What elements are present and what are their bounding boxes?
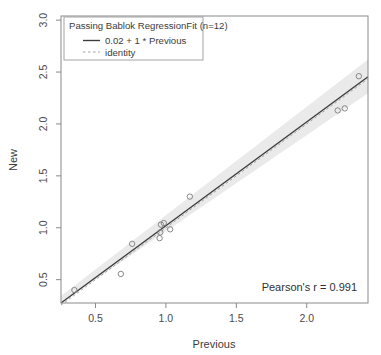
x-tick-label: 0.5	[88, 312, 103, 324]
regression-fit-line	[61, 77, 368, 303]
regression-plot-figure: 0.5 1.0 1.5 2.0 2.5 3.0 0.5 1.0 1.5 2.0 …	[0, 0, 381, 355]
plot-canvas: 0.5 1.0 1.5 2.0 2.5 3.0 0.5 1.0 1.5 2.0 …	[0, 0, 381, 355]
y-axis-tick-labels: 0.5 1.0 1.5 2.0 2.5 3.0	[37, 13, 49, 287]
y-tick-label: 3.0	[37, 13, 49, 28]
y-tick-label: 1.5	[37, 168, 49, 183]
x-tick-label: 2.0	[299, 312, 314, 324]
x-tick-label: 1.5	[229, 312, 244, 324]
y-tick-label: 2.0	[37, 116, 49, 131]
y-tick-label: 0.5	[37, 272, 49, 287]
y-tick-label: 2.5	[37, 65, 49, 80]
x-tick-label: 1.0	[159, 312, 174, 324]
y-axis-ticks	[56, 20, 61, 280]
data-point	[157, 235, 162, 240]
x-axis-title: Previous	[193, 338, 236, 350]
plot-frame	[61, 16, 368, 303]
confidence-band	[61, 60, 368, 303]
data-point	[118, 271, 123, 276]
legend[interactable]: Passing Bablok RegressionFit (n=12) 0.02…	[64, 17, 228, 60]
x-axis-ticks	[96, 303, 307, 308]
legend-entry-label: identity	[105, 47, 136, 58]
legend-title: Passing Bablok RegressionFit (n=12)	[69, 20, 228, 31]
y-tick-label: 1.0	[37, 220, 49, 235]
pearson-correlation-annotation: Pearson's r = 0.991	[262, 281, 357, 293]
y-axis-title: New	[7, 149, 19, 171]
confidence-band-group	[61, 60, 368, 303]
legend-entry-label: 0.02 + 1 * Previous	[105, 35, 187, 46]
x-axis-tick-labels: 0.5 1.0 1.5 2.0	[88, 312, 314, 324]
